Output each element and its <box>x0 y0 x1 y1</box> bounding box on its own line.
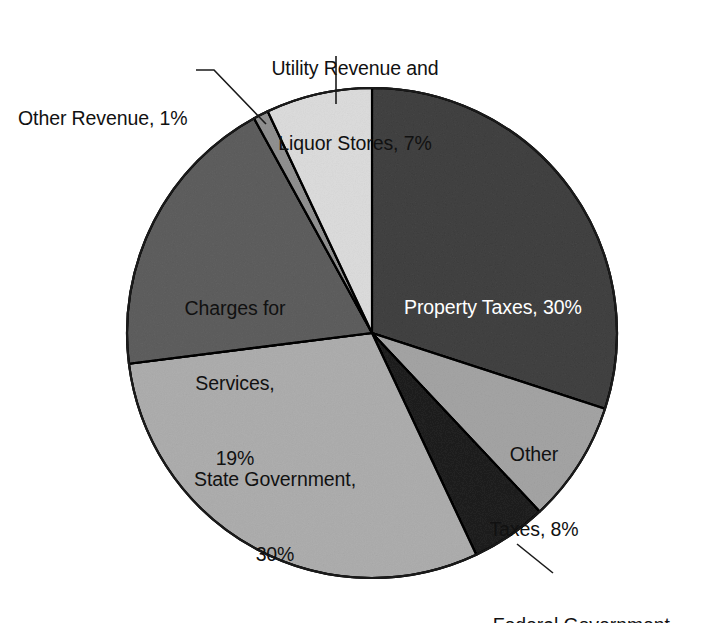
slice-label-property-taxes-line1: Property Taxes, 30% <box>404 295 582 320</box>
slice-label-charges-for-services: Charges for Services, 19% <box>145 246 325 521</box>
slice-label-charges-line2: Services, <box>145 371 325 396</box>
slice-label-charges-line1: Charges for <box>145 296 325 321</box>
callout-other-revenue-line1: Other Revenue, 1% <box>18 106 188 131</box>
callout-utility-line1: Utility Revenue and <box>225 56 485 81</box>
slice-label-other-taxes-line2: Taxes, 8% <box>459 517 609 542</box>
callout-utility-line2: Liquor Stores, 7% <box>225 131 485 156</box>
slice-label-charges-line3: 19% <box>145 446 325 471</box>
callout-federal-line1: Federal Government, <box>455 613 713 623</box>
callout-label-utility-revenue: Utility Revenue and Liquor Stores, 7% <box>225 6 485 206</box>
slice-label-state-government-line2: 30% <box>150 542 400 567</box>
slice-label-property-taxes: Property Taxes, 30% <box>404 245 582 370</box>
callout-label-other-revenue: Other Revenue, 1% <box>18 56 188 181</box>
slice-label-other-taxes-line1: Other <box>459 442 609 467</box>
pie-chart: Utility Revenue and Liquor Stores, 7% Ot… <box>0 0 719 623</box>
slice-label-other-taxes: Other Taxes, 8% <box>459 392 609 592</box>
